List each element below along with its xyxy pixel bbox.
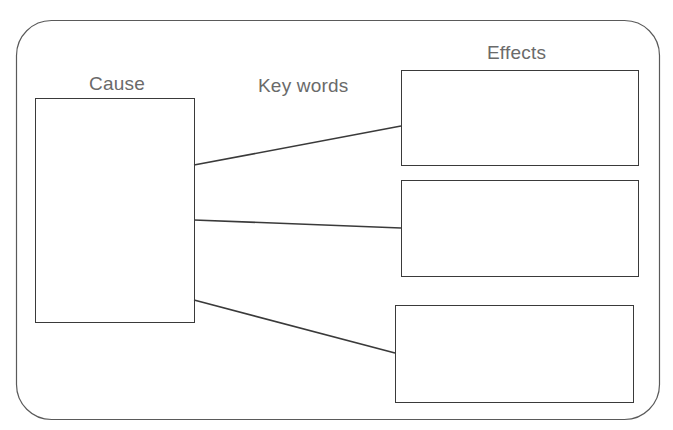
keywords-label: Key words (258, 76, 349, 95)
cause-effect-diagram: Cause Key words Effects (0, 0, 673, 430)
effect-box-1[interactable] (401, 70, 639, 166)
cause-label: Cause (89, 74, 145, 93)
cause-box[interactable] (35, 98, 195, 323)
effect-box-3[interactable] (395, 305, 634, 403)
effects-label: Effects (487, 43, 546, 62)
connector-line-effect-2 (194, 220, 401, 228)
connector-line-effect-1 (194, 126, 401, 165)
effect-box-2[interactable] (401, 180, 639, 277)
connector-line-effect-3 (194, 300, 395, 353)
